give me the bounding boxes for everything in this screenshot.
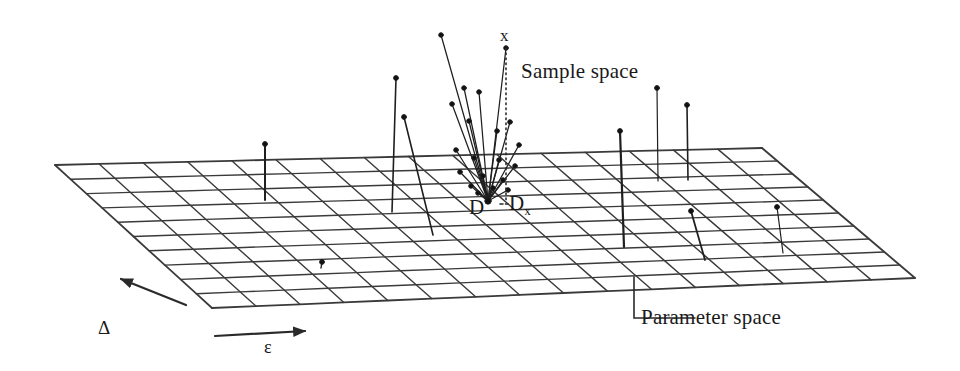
epsilon-axis-label: ε (264, 338, 272, 356)
set-dx-label: Dx (509, 193, 531, 217)
sample-fan-group (439, 33, 522, 205)
parameter-space-label: Parameter space (641, 307, 781, 328)
figure-canvas: Sample space Parameter space x D Dx Δ ε (0, 0, 960, 371)
set-d-label: D (469, 197, 484, 218)
set-dx-base: D (509, 191, 524, 215)
set-dx-subscript: x (524, 203, 531, 218)
point-x-label: x (500, 27, 509, 44)
delta-axis-label: Δ (98, 318, 110, 337)
sample-space-label: Sample space (521, 61, 638, 82)
diagram-artwork (0, 0, 960, 371)
